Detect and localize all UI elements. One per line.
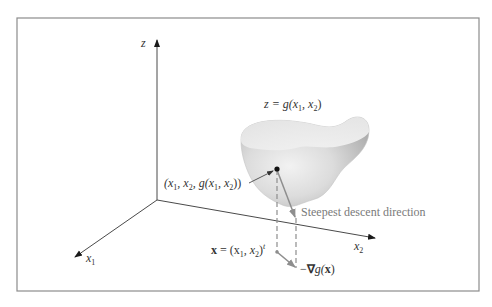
steepest-descent-label: Steepest descent direction	[301, 205, 426, 219]
negative-gradient-label: −∇g(x)	[300, 262, 335, 276]
surface-bowl	[241, 117, 369, 207]
steepest-descent-diagram: z x1 x2 z = g(x1, x2) (x1, x2, g(x1, x2)…	[0, 0, 492, 307]
surface-label: z = g(x1, x2)	[263, 97, 321, 113]
surface-point-dot	[274, 166, 279, 171]
z-axis-label: z	[140, 36, 146, 50]
point-label: (x1, x2, g(x1, x2))	[164, 176, 241, 192]
x-vector-label: x = (x1, x2)t	[211, 242, 266, 259]
x1-axis	[75, 200, 157, 257]
x1-axis-label: x1	[85, 251, 95, 267]
x2-axis-label: x2	[353, 239, 363, 255]
negative-gradient-arrow	[277, 252, 295, 267]
